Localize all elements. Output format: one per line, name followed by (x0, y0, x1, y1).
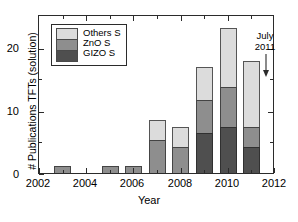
legend-swatch-others-s (57, 29, 77, 40)
y-tick-10 (39, 112, 44, 113)
y-tick-15 (39, 79, 42, 80)
plot-area: July 2011 Others S ZnO S G (39, 16, 273, 173)
y-tick-label-0: 0 (13, 168, 19, 180)
x-tick-2012 (274, 168, 275, 173)
x-tick-2004 (86, 168, 87, 173)
x-tick-label-2004: 2004 (73, 177, 97, 189)
bar-2007-others (149, 120, 166, 140)
bar-2008[interactable] (172, 127, 189, 173)
annotation-line-1: July (235, 30, 295, 41)
x-tick-top-2008 (181, 16, 182, 21)
legend-swatches (56, 28, 78, 62)
x-tick-2011 (251, 170, 252, 173)
bar-2010-gizo (220, 127, 237, 173)
x-tick-label-2010: 2010 (215, 177, 239, 189)
x-tick-2006 (133, 168, 134, 173)
y-tick-5 (39, 142, 42, 143)
x-tick-top-2005 (110, 16, 111, 19)
bar-2009-zno (196, 100, 213, 133)
y-tick-label-20: 20 (7, 42, 19, 54)
legend-label-gizo-s: GIZO S (83, 48, 121, 58)
bar-2011-zno (243, 127, 260, 147)
x-tick-top-2011 (251, 16, 252, 19)
x-tick-top-2009 (204, 16, 205, 19)
x-tick-2007 (157, 170, 158, 173)
y-tick-right-5 (270, 142, 273, 143)
legend-swatch-gizo-s (57, 51, 77, 61)
y-tick-20 (39, 49, 44, 50)
x-tick-2002 (39, 168, 40, 173)
bar-2011-others (243, 61, 260, 127)
bar-2007[interactable] (149, 120, 166, 173)
x-tick-top-2007 (157, 16, 158, 19)
y-tick-right-15 (270, 79, 273, 80)
x-axis-title: Year (0, 194, 298, 206)
y-tick-label-10: 10 (7, 105, 19, 117)
y-axis-title: # Publications TFTs (solution) (26, 21, 38, 181)
figure: # Publications TFTs (solution) 20 10 0 2… (0, 0, 298, 222)
legend-swatch-zno-s (57, 40, 77, 51)
x-tick-top-2010 (228, 16, 229, 21)
x-tick-label-2006: 2006 (120, 177, 144, 189)
x-tick-2009 (204, 170, 205, 173)
x-tick-top-2004 (86, 16, 87, 21)
y-tick-right-10 (268, 112, 273, 113)
x-tick-2003 (63, 170, 64, 173)
annotation-line-2: 2011 (235, 41, 295, 52)
bar-2008-others (172, 127, 189, 147)
x-tick-2005 (110, 170, 111, 173)
x-tick-top-2006 (133, 16, 134, 21)
y-tick-0 (39, 174, 44, 175)
x-tick-label-2002: 2002 (26, 177, 50, 189)
x-tick-2010 (228, 168, 229, 173)
annotation-arrow-down (261, 54, 271, 78)
x-tick-2008 (181, 168, 182, 173)
bar-2007-zno (149, 140, 166, 173)
bar-2009-gizo (196, 133, 213, 173)
bar-2010-zno (220, 87, 237, 127)
x-tick-label-2008: 2008 (168, 177, 192, 189)
bar-2009-others (196, 67, 213, 100)
annotation-july-2011: July 2011 (235, 30, 295, 52)
plot-frame: July 2011 Others S ZnO S G (38, 15, 274, 174)
bar-2011[interactable] (243, 61, 260, 173)
legend-labels: Others S ZnO S GIZO S (83, 28, 121, 62)
legend: Others S ZnO S GIZO S (51, 24, 127, 66)
bar-2009[interactable] (196, 67, 213, 173)
x-tick-top-2003 (63, 16, 64, 19)
x-tick-label-2012: 2012 (262, 177, 286, 189)
